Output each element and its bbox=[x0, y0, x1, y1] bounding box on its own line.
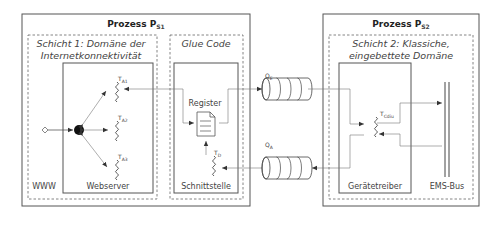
dispatch-arrow-a3 bbox=[83, 136, 107, 167]
interface-label: Schnittstelle bbox=[181, 182, 231, 191]
qe-to-tcdiu-arrow bbox=[308, 89, 364, 124]
glue-code-title: Glue Code bbox=[181, 38, 230, 49]
process-s1-title: Prozess PS1 bbox=[107, 19, 165, 30]
layer1-title-line1: Schicht 1: Domäne der bbox=[36, 38, 146, 49]
www-entry-diamond-icon bbox=[42, 127, 48, 133]
www-label: WWW bbox=[32, 182, 56, 191]
thread-a2-label: TA2 bbox=[117, 114, 128, 123]
queue-qa-icon bbox=[262, 157, 312, 179]
register-to-qe-arrow bbox=[219, 89, 262, 123]
thread-cdiu-icon bbox=[375, 117, 378, 137]
device-driver-label: Gerätetreiber bbox=[348, 182, 403, 191]
thread-a3-icon bbox=[116, 160, 119, 180]
process-s2-title: Prozess PS2 bbox=[372, 19, 430, 30]
queue-qe-icon bbox=[262, 78, 312, 100]
thread-d-icon bbox=[213, 156, 216, 176]
thread-a1-label: TA1 bbox=[117, 75, 128, 84]
architecture-diagram: Prozess PS1 Schicht 1: Domäne der Intern… bbox=[0, 0, 499, 226]
layer1-title-line2: Internetkonnektivität bbox=[41, 50, 143, 61]
ems-bus-label: EMS-Bus bbox=[430, 182, 464, 191]
thread-cdiu-label: TCdiu bbox=[379, 110, 394, 119]
tcdiu-to-qa-arrow bbox=[312, 135, 364, 168]
ems-bus bbox=[445, 82, 449, 177]
register-document-icon bbox=[197, 112, 215, 136]
queue-qa-label: QA bbox=[265, 141, 274, 150]
webserver-label: Webserver bbox=[87, 182, 130, 191]
register-label: Register bbox=[189, 99, 223, 108]
layer2-title-line2: eingebettete Domäne bbox=[349, 50, 453, 61]
dispatch-arrow-a1 bbox=[83, 91, 106, 124]
layer2-title-line1: Schicht 2: Klassiche, bbox=[352, 38, 450, 49]
dispatcher-node bbox=[74, 125, 84, 135]
thread-a3-label: TA3 bbox=[117, 153, 128, 162]
thread-a1-icon bbox=[116, 82, 119, 102]
thread-a2-icon bbox=[116, 121, 119, 141]
